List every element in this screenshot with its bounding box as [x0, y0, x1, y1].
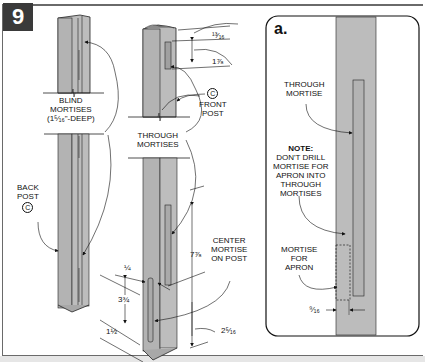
note-heading: NOTE:: [273, 144, 328, 153]
dim-edge-offset: ¼: [124, 263, 131, 272]
part-c-marker: C: [207, 88, 218, 99]
label-line: MORTISES: [137, 140, 179, 149]
label-line: MORTISES: [47, 105, 95, 114]
label-line: MORTISE: [281, 245, 317, 254]
back-post-upper: [43, 15, 104, 97]
blind-mortises-label: BLIND MORTISES (1⁵⁄₁₆"-DEEP): [47, 96, 95, 123]
front-post-label: C FRONT POST: [199, 88, 227, 118]
label-line: FRONT: [199, 100, 227, 109]
dim-top-mortise-length: 1⅞: [212, 57, 223, 66]
label-line: POST: [17, 192, 39, 201]
through-mortises-label: THROUGH MORTISES: [137, 131, 179, 149]
label-line: (1⁵⁄₁₆"-DEEP): [47, 114, 95, 123]
note-line: APRON INTO: [273, 171, 328, 180]
label-line: THROUGH: [284, 80, 324, 89]
dim-bottom-offset: 1½: [106, 327, 117, 336]
note-line: MORTISES: [273, 189, 328, 198]
dim-short-mortise: 3¾: [118, 295, 129, 304]
back-post-lower: [44, 134, 104, 312]
dim-top-offset: ¹³⁄₁₆: [212, 31, 225, 40]
inset-through-mortise-label: THROUGH MORTISE: [284, 80, 324, 98]
label-line: FOR: [281, 254, 317, 263]
label-line: APRON: [281, 263, 317, 272]
back-post-label: BACK POST C: [17, 183, 39, 213]
front-post-upper: [128, 25, 190, 121]
label-line: BACK: [17, 183, 39, 192]
center-mortise-label: CENTER MORTISE ON POST: [211, 236, 247, 263]
label-line: ON POST: [211, 254, 247, 263]
label-line: CENTER: [211, 236, 247, 245]
inset-offset-dimension: ⁹⁄₁₆: [309, 305, 320, 314]
note-line: DON'T DRILL: [273, 153, 328, 162]
label-line: THROUGH: [137, 131, 179, 140]
note-line: THROUGH: [273, 180, 328, 189]
label-line: POST: [199, 109, 227, 118]
inset-apron-mortise-label: MORTISE FOR APRON: [281, 245, 317, 272]
inset-title: a.: [274, 20, 287, 38]
label-line: BLIND: [47, 96, 95, 105]
inset-note: NOTE: DON'T DRILL MORTISE FOR APRON INTO…: [273, 144, 328, 198]
label-line: MORTISE: [284, 89, 324, 98]
part-c-marker: C: [22, 202, 33, 213]
dim-bottom-spacing: 2⁵⁄₁₆: [221, 326, 236, 335]
note-line: MORTISE FOR: [273, 162, 328, 171]
front-post-lower: [128, 158, 190, 360]
dim-long-mortise: 7⅞: [190, 250, 201, 259]
label-line: MORTISE: [211, 245, 247, 254]
diagram-drawing: [0, 0, 425, 362]
